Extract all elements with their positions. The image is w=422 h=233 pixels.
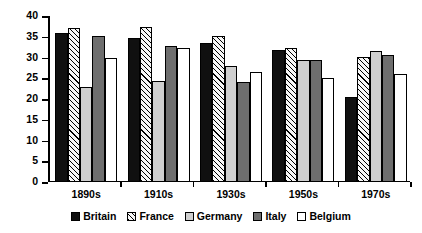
y-axis-tick: 10 — [42, 141, 48, 143]
y-axis-tick-label: 30 — [26, 51, 38, 63]
x-axis-category-label: 1930s — [216, 188, 245, 200]
bar — [212, 36, 224, 182]
bar — [357, 57, 369, 182]
bar-group — [128, 16, 190, 182]
bar-group — [345, 16, 407, 182]
legend-item-britain[interactable]: Britain — [71, 210, 116, 222]
y-axis-tick-label: 20 — [26, 92, 38, 104]
y-axis-tick: 15 — [42, 120, 48, 122]
bar — [152, 81, 164, 182]
bar — [394, 74, 406, 182]
bar-group — [55, 16, 117, 182]
legend-swatch-icon — [127, 212, 136, 221]
y-axis-tick-label: 35 — [26, 30, 38, 42]
legend-label: France — [139, 210, 173, 222]
x-axis-category-label: 1890s — [72, 188, 101, 200]
bar — [272, 50, 284, 182]
legend-swatch-icon — [185, 212, 194, 221]
legend-label: Germany — [197, 210, 243, 222]
legend-swatch-icon — [297, 212, 306, 221]
bar — [105, 58, 117, 182]
bar — [322, 78, 334, 182]
y-axis-tick: 30 — [42, 58, 48, 60]
bar — [68, 28, 80, 182]
bar — [165, 46, 177, 182]
legend-label: Italy — [265, 210, 286, 222]
bar — [128, 38, 140, 182]
bar — [55, 33, 67, 182]
bar — [285, 48, 297, 182]
x-axis-tick — [193, 182, 195, 187]
bar — [345, 97, 357, 182]
bar — [200, 43, 212, 182]
x-axis-category-label: 1910s — [144, 188, 173, 200]
x-axis-category-label: 1970s — [361, 188, 390, 200]
bar — [382, 55, 394, 182]
y-axis-tick: 25 — [42, 78, 48, 80]
bar — [140, 27, 152, 182]
bar-group — [272, 16, 334, 182]
x-axis-tick — [338, 182, 340, 187]
bar — [250, 72, 262, 182]
y-axis-tick-label: 0 — [32, 175, 38, 187]
bar — [177, 48, 189, 182]
y-axis-tick: 20 — [42, 99, 48, 101]
x-axis-tick — [265, 182, 267, 187]
y-axis-tick-label: 40 — [26, 9, 38, 21]
y-axis-tick: 5 — [42, 161, 48, 163]
bar — [237, 82, 249, 182]
y-axis-tick: 35 — [42, 37, 48, 39]
legend-item-italy[interactable]: Italy — [253, 210, 286, 222]
y-axis-tick-label: 15 — [26, 113, 38, 125]
y-axis-tick: 40 — [42, 16, 48, 18]
y-axis-tick-label: 10 — [26, 134, 38, 146]
x-axis-category-label: 1950s — [289, 188, 318, 200]
bar — [297, 60, 309, 182]
bar-group — [200, 16, 262, 182]
chart-legend: BritainFranceGermanyItalyBelgium — [0, 210, 422, 222]
bar — [92, 36, 104, 182]
y-axis-tick-label: 25 — [26, 71, 38, 83]
bar — [370, 51, 382, 182]
bar — [310, 60, 322, 182]
legend-swatch-icon — [71, 212, 80, 221]
bar — [225, 66, 237, 182]
x-axis-tick — [410, 182, 412, 187]
legend-swatch-icon — [253, 212, 262, 221]
x-axis-tick — [120, 182, 122, 187]
plot-area: 0510152025303540 — [48, 16, 410, 182]
legend-item-germany[interactable]: Germany — [185, 210, 243, 222]
bar — [80, 87, 92, 182]
y-axis-tick: 0 — [42, 182, 48, 184]
legend-item-france[interactable]: France — [127, 210, 173, 222]
y-axis-tick-label: 5 — [32, 154, 38, 166]
bar-chart-figure: Women as % of labour force 0510152025303… — [0, 0, 422, 233]
legend-item-belgium[interactable]: Belgium — [297, 210, 350, 222]
y-axis-line — [48, 16, 50, 182]
legend-label: Belgium — [309, 210, 350, 222]
legend-label: Britain — [83, 210, 116, 222]
